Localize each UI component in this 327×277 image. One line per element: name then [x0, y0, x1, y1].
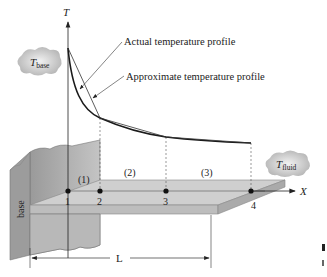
actual-profile-label: Actual temperature profile — [124, 36, 236, 47]
node-1 — [65, 188, 70, 193]
element-label-3: (3) — [201, 167, 213, 179]
actual-profile-curve — [68, 48, 251, 143]
node-label-3: 3 — [163, 196, 168, 207]
node-label-4: 4 — [251, 200, 256, 211]
t-fluid-cloud: Tfluid — [265, 151, 310, 178]
node-label-2: 2 — [97, 196, 102, 207]
approximate-leader — [93, 76, 124, 98]
approximate-profile-line — [68, 48, 251, 143]
x-axis-label: X — [299, 185, 308, 197]
t-axis-label: T — [63, 6, 70, 18]
base-label: base — [15, 200, 26, 218]
node-2 — [97, 188, 102, 193]
node-4 — [248, 188, 253, 193]
length-label: L — [116, 252, 123, 264]
element-label-1: (1) — [78, 174, 90, 186]
element-label-2: (2) — [124, 167, 136, 179]
node-label-1: 1 — [65, 196, 70, 207]
node-3 — [163, 188, 168, 193]
edge-mark — [322, 244, 325, 251]
edge-mark — [322, 260, 324, 266]
t-base-cloud: Tbase — [17, 47, 61, 76]
fin-diagram: base T X Actual temperature profile Appr… — [0, 0, 327, 277]
approximate-profile-label: Approximate temperature profile — [126, 71, 265, 82]
